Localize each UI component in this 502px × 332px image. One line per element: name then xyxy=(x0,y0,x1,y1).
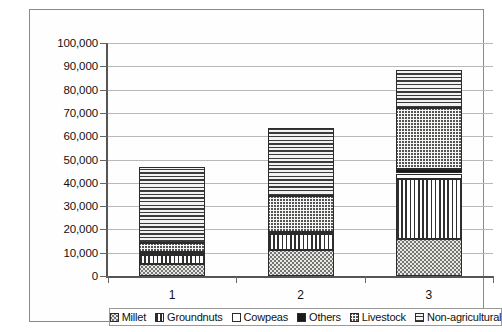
y-axis-tick-label: 100,000 xyxy=(57,37,98,49)
bar-segment-millet[interactable] xyxy=(268,250,334,276)
stacked-bar[interactable] xyxy=(139,167,205,276)
bar-segment-millet[interactable] xyxy=(396,239,462,276)
stacked-bar[interactable] xyxy=(396,70,462,276)
legend-item-livestock[interactable]: Livestock xyxy=(350,311,406,323)
bar-segment-non-agricultural[interactable] xyxy=(396,70,462,108)
y-axis-tick xyxy=(100,253,108,254)
bar-segment-others[interactable] xyxy=(396,169,462,174)
y-axis-tick-label: 60,000 xyxy=(63,130,98,142)
y-axis-tick xyxy=(100,229,108,230)
y-axis-tick-label: 20,000 xyxy=(63,223,98,235)
plot-area: 010,00020,00030,00040,00050,00060,00070,… xyxy=(106,43,493,278)
legend-item-label: Groundnuts xyxy=(167,311,222,323)
y-axis-tick-label: 90,000 xyxy=(63,60,98,72)
bar-segment-non-agricultural[interactable] xyxy=(268,128,334,196)
legend-swatch-icon xyxy=(297,313,306,322)
legend-item-label: Cowpeas xyxy=(244,311,288,323)
legend-item-label: Millet xyxy=(122,311,146,323)
legend-swatch-icon xyxy=(110,313,119,322)
legend-swatch-icon xyxy=(415,313,424,322)
x-axis-tick-label: 1 xyxy=(169,288,176,302)
x-axis-tick-label: 3 xyxy=(425,288,432,302)
y-axis-tick xyxy=(100,183,108,184)
bar-segment-groundnuts[interactable] xyxy=(396,179,462,238)
legend-swatch-icon xyxy=(350,313,359,322)
y-axis-tick-label: 50,000 xyxy=(63,154,98,166)
bar-segment-cowpeas[interactable] xyxy=(396,174,462,180)
y-axis-tick xyxy=(100,43,108,44)
legend-swatch-icon xyxy=(155,313,164,322)
x-axis-tick xyxy=(108,276,109,283)
y-axis-tick xyxy=(100,160,108,161)
legend-item-label: Non-agricultural xyxy=(427,311,501,323)
y-axis-tick xyxy=(100,206,108,207)
bar-segment-non-agricultural[interactable] xyxy=(139,167,205,243)
y-axis-tick-label: 40,000 xyxy=(63,177,98,189)
x-axis-tick xyxy=(365,276,366,283)
y-axis-tick-label: 10,000 xyxy=(63,247,98,259)
legend-item-millet[interactable]: Millet xyxy=(110,311,146,323)
x-axis-tick-label: 2 xyxy=(297,288,304,302)
y-axis-tick xyxy=(100,136,108,137)
chart-frame: 010,00020,00030,00040,00050,00060,00070,… xyxy=(29,9,484,322)
legend-swatch-icon xyxy=(232,313,241,322)
bar-segment-groundnuts[interactable] xyxy=(268,234,334,250)
y-axis-tick-label: 80,000 xyxy=(63,84,98,96)
legend-item-cowpeas[interactable]: Cowpeas xyxy=(232,311,288,323)
bar-segment-livestock[interactable] xyxy=(396,108,462,169)
legend-item-label: Others xyxy=(309,311,341,323)
stacked-bar[interactable] xyxy=(268,128,334,276)
y-axis-tick xyxy=(100,90,108,91)
chart-legend: MilletGroundnutsCowpeasOthersLivestockNo… xyxy=(109,308,502,326)
y-axis-tick-label: 70,000 xyxy=(63,107,98,119)
y-axis-tick-label: 30,000 xyxy=(63,200,98,212)
y-axis-tick xyxy=(100,113,108,114)
y-axis-tick-label: 0 xyxy=(92,270,98,282)
y-axis-tick xyxy=(100,66,108,67)
legend-item-non-agricultural[interactable]: Non-agricultural xyxy=(415,311,501,323)
bar-segment-groundnuts[interactable] xyxy=(139,255,205,264)
bar-segment-millet[interactable] xyxy=(139,264,205,276)
gridline xyxy=(108,43,493,44)
x-axis-tick xyxy=(493,276,494,283)
y-axis-tick xyxy=(100,276,108,277)
bar-segment-livestock[interactable] xyxy=(139,243,205,252)
legend-item-others[interactable]: Others xyxy=(297,311,341,323)
legend-item-label: Livestock xyxy=(362,311,406,323)
gridline xyxy=(108,66,493,67)
x-axis-tick xyxy=(236,276,237,283)
legend-item-groundnuts[interactable]: Groundnuts xyxy=(155,311,222,323)
bar-segment-livestock[interactable] xyxy=(268,196,334,232)
